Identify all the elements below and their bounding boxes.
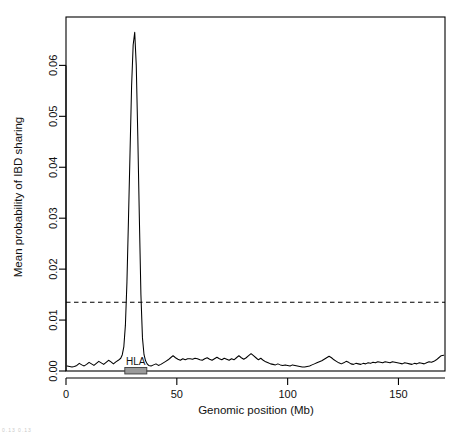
page-corner-artifact: 0.13 0.13 bbox=[2, 427, 32, 433]
y-tick-label: 0.02 bbox=[47, 258, 59, 279]
y-tick-label: 0.00 bbox=[47, 360, 59, 381]
x-tick-label: 50 bbox=[171, 388, 183, 400]
y-tick-label: 0.01 bbox=[47, 309, 59, 330]
chart-background bbox=[0, 0, 460, 434]
y-axis-title: Mean probability of IBD sharing bbox=[12, 117, 24, 277]
x-tick-label: 100 bbox=[278, 388, 296, 400]
y-tick-label: 0.05 bbox=[47, 106, 59, 127]
hla-region-marker: HLA bbox=[125, 356, 147, 374]
ibd-sharing-line-chart: 0.000.010.020.030.040.050.06 050100150 H… bbox=[0, 0, 460, 434]
x-tick-label: 150 bbox=[389, 388, 407, 400]
x-tick-label: 0 bbox=[63, 388, 69, 400]
hla-label: HLA bbox=[126, 356, 146, 367]
y-tick-label: 0.04 bbox=[47, 157, 59, 178]
y-tick-label: 0.06 bbox=[47, 55, 59, 76]
y-tick-label: 0.03 bbox=[47, 207, 59, 228]
chart-figure: 0.000.010.020.030.040.050.06 050100150 H… bbox=[0, 0, 460, 434]
x-axis-title: Genomic position (Mb) bbox=[198, 404, 314, 416]
